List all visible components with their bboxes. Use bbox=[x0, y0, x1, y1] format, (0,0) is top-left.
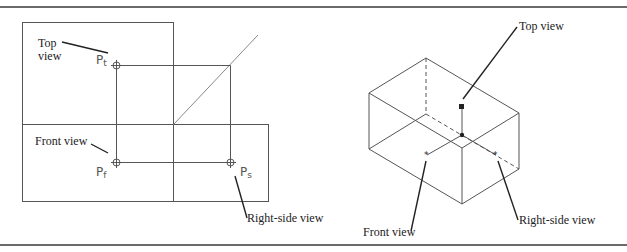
point-marker-top bbox=[111, 60, 122, 71]
iso-marker-top bbox=[459, 104, 464, 109]
iso-marker-center bbox=[460, 133, 464, 137]
miter-line bbox=[174, 35, 259, 125]
point-marker-front bbox=[111, 157, 122, 168]
leader-iso-top-view bbox=[463, 27, 517, 99]
label-front-view: Front view bbox=[35, 135, 87, 148]
leader-iso-right-side-view bbox=[498, 161, 518, 220]
leader-front-view bbox=[91, 144, 108, 153]
label-iso-top-view: Top view bbox=[519, 20, 564, 33]
label-top-view: Top view bbox=[38, 37, 61, 63]
leader-top-view bbox=[62, 42, 108, 53]
iso-marker-side: * bbox=[493, 150, 498, 160]
label-iso-front-view: Front view bbox=[363, 226, 415, 239]
point-label-top: Pt bbox=[96, 54, 107, 67]
leader-right-side-view bbox=[235, 176, 247, 218]
point-marker-side bbox=[225, 157, 236, 168]
label-right-side-view: Right-side view bbox=[247, 212, 323, 225]
point-label-side: Ps bbox=[240, 166, 252, 179]
isometric-box bbox=[369, 58, 519, 204]
iso-marker-front: * bbox=[424, 150, 429, 160]
leader-iso-front-view bbox=[411, 161, 426, 231]
point-label-front: Pf bbox=[96, 166, 106, 179]
label-iso-right-side-view: Right-side view bbox=[519, 214, 595, 227]
